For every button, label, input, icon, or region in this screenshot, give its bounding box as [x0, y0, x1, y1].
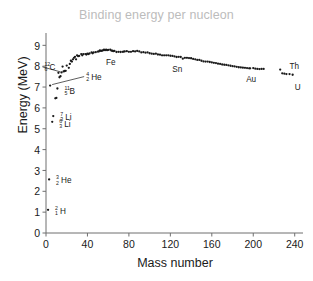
data-point	[281, 72, 283, 74]
annotation-sn: Sn	[172, 65, 182, 74]
data-point	[173, 55, 175, 57]
chart-title: Binding energy per nucleon	[0, 8, 313, 22]
y-tick-label: 1	[34, 206, 40, 218]
data-point	[124, 50, 126, 52]
data-point	[138, 50, 140, 52]
annotation-element-symbol: B	[69, 87, 75, 96]
data-point	[215, 62, 217, 64]
data-point	[221, 63, 223, 65]
binding-energy-chart: Binding energy per nucleon Energy (MeV) …	[0, 0, 313, 281]
annotation-au: Au	[246, 75, 256, 84]
data-point	[227, 64, 229, 66]
data-point	[244, 67, 246, 69]
data-point	[134, 50, 136, 52]
data-point	[88, 52, 90, 54]
annotation-element-symbol: Sn	[172, 65, 182, 74]
data-point	[74, 56, 76, 58]
data-point	[190, 57, 192, 59]
data-point	[144, 51, 146, 53]
data-point	[69, 63, 71, 65]
annotation-atomic-number: 5	[64, 90, 67, 96]
data-point	[178, 56, 180, 58]
data-point	[229, 65, 231, 67]
y-tick-label: 7	[34, 81, 40, 93]
data-point	[142, 51, 144, 53]
x-tick-label: 40	[82, 238, 94, 250]
data-point	[165, 54, 167, 56]
x-tick-label: 120	[162, 238, 180, 250]
data-point	[225, 64, 227, 66]
data-point	[163, 54, 165, 56]
data-point	[57, 72, 59, 74]
data-point	[180, 56, 182, 58]
data-point	[78, 55, 80, 57]
annotation-atomic-number: 2	[56, 180, 59, 186]
data-point	[95, 51, 97, 53]
data-point	[217, 63, 219, 65]
annotation-fe: Fe	[106, 58, 116, 67]
data-point	[126, 50, 128, 52]
data-point	[219, 63, 221, 65]
data-point	[186, 57, 188, 59]
data-point	[171, 55, 173, 57]
annotation-element-symbol: Fe	[106, 58, 116, 67]
annotation-element-symbol: U	[295, 83, 301, 92]
annotation-he4: 42He	[86, 71, 102, 82]
data-point	[151, 53, 153, 55]
data-point	[196, 59, 198, 61]
data-point	[61, 65, 63, 67]
x-tick-label: 160	[203, 238, 221, 250]
annotation-u: U	[295, 83, 301, 92]
annotation-li7: 73Li	[60, 111, 72, 122]
y-tick-label: 4	[34, 144, 40, 156]
data-point	[231, 65, 233, 67]
annotation-h2: 21H	[55, 205, 66, 216]
data-point	[82, 53, 84, 55]
data-point	[182, 58, 184, 60]
data-point	[184, 57, 186, 59]
data-point	[279, 68, 281, 70]
data-point	[68, 67, 70, 69]
data-point	[56, 87, 58, 89]
data-point	[75, 58, 77, 60]
data-point	[194, 58, 196, 60]
data-point	[291, 74, 293, 76]
annotation-he3: 32He	[56, 174, 72, 185]
annotation-c12: 126C	[44, 61, 55, 72]
y-tick-label: 2	[34, 185, 40, 197]
data-point	[242, 67, 244, 69]
annotation-b11: 115B	[64, 85, 75, 96]
x-tick-label: 0	[43, 238, 49, 250]
data-point	[213, 62, 215, 64]
y-tick-label: 8	[34, 60, 40, 72]
annotation-element-symbol: C	[49, 63, 55, 72]
data-point	[55, 97, 57, 99]
data-point	[260, 68, 262, 70]
data-point	[48, 178, 50, 180]
data-point	[130, 51, 132, 53]
data-point	[283, 73, 285, 75]
data-point	[223, 64, 225, 66]
data-point	[115, 51, 117, 53]
data-series-binding-energy	[47, 49, 294, 211]
annotation-element-symbol: Li	[65, 113, 72, 122]
data-point	[117, 51, 119, 53]
y-tick-label: 9	[34, 40, 40, 52]
data-point	[249, 67, 251, 69]
data-point	[66, 64, 68, 66]
data-point	[256, 68, 258, 70]
data-point	[140, 51, 142, 53]
data-point	[146, 51, 148, 53]
data-point	[59, 75, 61, 77]
x-tick-label: 200	[244, 238, 262, 250]
data-point	[209, 61, 211, 63]
data-point	[262, 68, 264, 70]
data-point	[159, 54, 161, 56]
annotation-atomic-number: 1	[55, 210, 58, 216]
data-point	[202, 60, 204, 62]
data-point	[49, 84, 51, 86]
data-point	[51, 121, 53, 123]
data-point	[192, 58, 194, 60]
annotation-element-symbol: Th	[289, 62, 299, 71]
annotation-atomic-number: 3	[60, 116, 63, 122]
